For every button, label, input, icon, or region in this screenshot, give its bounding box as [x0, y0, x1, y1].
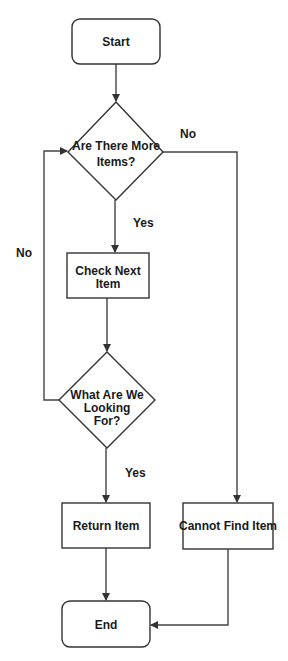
- node-more-items[interactable]: Are There More Items?: [68, 102, 163, 200]
- looking-for-label-line2: Looking: [84, 401, 131, 415]
- node-check-next[interactable]: Check Next Item: [67, 253, 149, 298]
- edge-more-items-no: [163, 152, 237, 502]
- node-looking-for[interactable]: What Are We Looking For?: [59, 352, 155, 448]
- node-cannot-find[interactable]: Cannot Find Item: [179, 503, 277, 549]
- more-items-label-line1: Are There More: [72, 139, 160, 153]
- edge-label-more-items-yes: Yes: [133, 216, 154, 230]
- return-item-label: Return Item: [73, 519, 140, 533]
- end-label: End: [95, 618, 118, 632]
- looking-for-label-line3: For?: [94, 414, 121, 428]
- flowchart-canvas: Start Are There More Items? Check Next I…: [0, 0, 288, 661]
- check-next-label-line2: Item: [96, 277, 121, 291]
- more-items-label-line2: Items?: [97, 155, 136, 169]
- check-next-label-line1: Check Next: [75, 264, 140, 278]
- start-label: Start: [102, 35, 129, 49]
- edge-label-looking-for-yes: Yes: [125, 466, 146, 480]
- node-return-item[interactable]: Return Item: [62, 503, 150, 548]
- looking-for-label-line1: What Are We: [70, 388, 144, 402]
- node-start[interactable]: Start: [72, 19, 160, 64]
- edge-label-more-items-no: No: [180, 127, 196, 141]
- edge-label-looking-for-no: No: [16, 246, 32, 260]
- cannot-find-label: Cannot Find Item: [179, 519, 277, 533]
- node-end[interactable]: End: [62, 601, 150, 647]
- edge-looking-for-no: [44, 151, 67, 400]
- edge-cannot-find-to-end: [151, 549, 228, 625]
